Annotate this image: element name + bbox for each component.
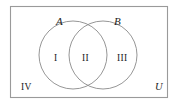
region-label-iv: IV bbox=[21, 83, 32, 93]
set-a-circle bbox=[39, 21, 107, 89]
universal-set-rectangle bbox=[11, 7, 168, 98]
set-b-label: B bbox=[114, 16, 121, 27]
region-label-iii: III bbox=[117, 54, 127, 64]
set-a-label: A bbox=[56, 16, 63, 27]
universal-set-label: U bbox=[155, 82, 163, 93]
region-label-ii: II bbox=[82, 54, 89, 64]
region-label-i: I bbox=[54, 54, 57, 64]
venn-diagram-figure: A B I II III IV U bbox=[0, 0, 176, 105]
